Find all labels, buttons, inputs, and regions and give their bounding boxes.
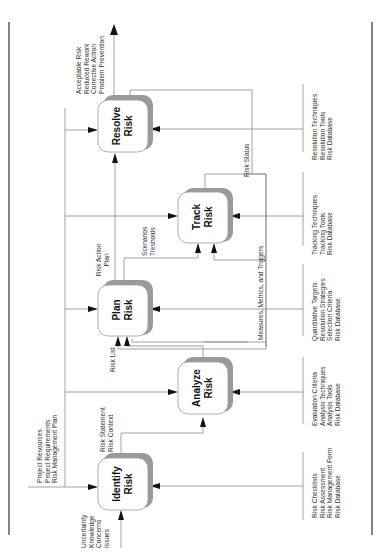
flow-plan-track (124, 246, 198, 283)
label-scenarios: Scenarios Tresholds (141, 226, 156, 256)
process-resolve-line1: Resolve (111, 106, 122, 145)
svg-text:Evaluation Criteria: Evaluation Criteria (311, 372, 318, 426)
arrow-control-track (168, 213, 178, 219)
arrow-output-resolve (110, 24, 118, 35)
label-risk-list: Risk List (109, 347, 116, 372)
svg-text:Risk Management Plan: Risk Management Plan (51, 414, 59, 483)
arrow-control-plan (88, 306, 98, 312)
svg-text:Problem Prevention: Problem Prevention (98, 36, 105, 94)
mechanism-lines (152, 84, 303, 520)
svg-text:Selection Criteria: Selection Criteria (326, 290, 333, 341)
label-outputs: Acceptable Risk Reduced Rework Correctiv… (75, 36, 105, 94)
svg-text:Corrective Action: Corrective Action (90, 44, 97, 94)
process-track-line1: Track (191, 203, 202, 230)
process-plan-line1: Plan (111, 299, 122, 320)
label-inputs: Uncertainty Knowledge Concerns Issues (80, 514, 110, 548)
svg-text:Risk Checklists: Risk Checklists (311, 473, 318, 518)
label-mech-track: Tracking Techniques Tracking Tools Risk … (311, 194, 333, 255)
svg-text:Risk Database: Risk Database (334, 383, 341, 426)
svg-text:Risk Assessment: Risk Assessment (319, 468, 326, 518)
process-analyze-line2: Risk (203, 377, 214, 399)
label-mech-resolve: Resolution Techniques Resolution Tools R… (311, 93, 333, 160)
svg-text:Reduced Rework: Reduced Rework (83, 43, 90, 94)
process-analyze: Analyze Risk (178, 357, 233, 414)
arrow-control-identify (88, 484, 98, 490)
arrow-flow-track-a (195, 243, 201, 253)
arrow-flow-plan-b (115, 336, 121, 346)
arrow-flow-analyze (200, 417, 206, 427)
label-mech-analyze: Evaluation Criteria Analysis Techniques … (311, 366, 341, 426)
arrow-flow-plan-a (124, 336, 130, 346)
arrow-flow-resolve (112, 153, 118, 163)
flow-identify-analyze (121, 420, 203, 455)
arrow-flow-track-b (211, 243, 217, 253)
svg-text:Risk Context: Risk Context (107, 414, 114, 452)
svg-text:Risk Statement: Risk Statement (99, 407, 106, 452)
process-track: Track Risk (178, 188, 233, 243)
svg-text:Tresholds: Tresholds (149, 227, 156, 256)
process-identify-line1: Identify (111, 466, 122, 502)
svg-text:Risk Action: Risk Action (95, 243, 102, 276)
svg-text:Measures, Metrics, and Trigger: Measures, Metrics, and Triggers (257, 245, 265, 340)
svg-text:Plan: Plan (103, 253, 110, 267)
label-identify-analyze: Risk Statement Risk Context (99, 407, 114, 452)
svg-text:Risk Database: Risk Database (334, 475, 341, 518)
label-risk-status: Risk Status (243, 143, 250, 177)
label-risk-action-plan: Risk Action Plan (95, 243, 110, 276)
process-plan: Plan Risk (98, 280, 153, 336)
process-resolve: Resolve Risk (98, 95, 153, 152)
svg-text:Risk Database: Risk Database (334, 298, 341, 341)
process-plan-line2: Risk (123, 299, 134, 321)
svg-text:Risk List: Risk List (109, 347, 116, 372)
svg-text:Risk Database: Risk Database (326, 117, 333, 160)
svg-text:Risk Status: Risk Status (243, 143, 250, 177)
label-mech-plan: Quantitative Targets Resolution Strategi… (311, 278, 341, 341)
flow-feedback-plan-2 (132, 339, 248, 342)
process-identify-line2: Risk (123, 473, 134, 495)
svg-text:Concerns: Concerns (95, 519, 102, 548)
svg-text:Resolution Tools: Resolution Tools (319, 111, 326, 160)
label-measures: Measures, Metrics, and Triggers (257, 245, 265, 340)
arrow-control-analyze (168, 389, 178, 395)
process-identify: Identify Risk (98, 453, 153, 510)
svg-text:Risk Database: Risk Database (326, 212, 333, 255)
flow-feedback-plan (203, 342, 266, 346)
arrow-input-identify (118, 510, 124, 520)
arrow-control-resolve (88, 127, 98, 133)
risk-management-diagram: Identify Risk Analyze Risk Plan Risk Tra… (0, 0, 381, 558)
label-controls: Project Resources Project Requirements R… (36, 414, 59, 483)
process-track-line2: Risk (203, 206, 214, 228)
process-analyze-line1: Analyze (191, 369, 202, 407)
label-mech-identify: Risk Checklists Risk Assessment Risk Man… (311, 447, 341, 518)
process-resolve-line2: Risk (123, 115, 134, 137)
svg-text:Issues: Issues (103, 528, 110, 548)
svg-text:Scenarios: Scenarios (141, 226, 148, 256)
